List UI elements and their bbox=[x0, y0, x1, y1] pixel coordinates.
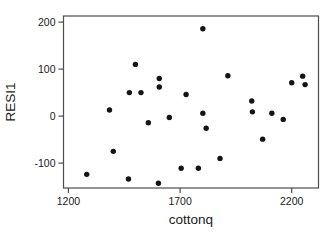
plot-border bbox=[64, 16, 319, 188]
y-axis-tick-labels: -1000100200 bbox=[34, 16, 55, 169]
data-point bbox=[167, 115, 172, 120]
y-axis-ticks bbox=[59, 22, 64, 163]
data-point bbox=[178, 166, 183, 171]
x-axis-tick-labels: 120017002200 bbox=[57, 195, 304, 207]
x-axis-ticks bbox=[68, 188, 291, 193]
y-tick-label: 100 bbox=[38, 63, 56, 75]
data-point bbox=[111, 149, 116, 154]
x-tick-label: 1200 bbox=[57, 195, 81, 207]
data-point bbox=[281, 117, 286, 122]
data-point bbox=[157, 84, 162, 89]
data-point bbox=[249, 98, 254, 103]
data-point bbox=[157, 76, 162, 81]
data-point bbox=[200, 26, 205, 31]
scatter-plot-svg: -1000100200 120017002200 RESI1 cottonq bbox=[0, 0, 336, 239]
data-point bbox=[200, 111, 205, 116]
data-point bbox=[300, 73, 305, 78]
data-point bbox=[289, 80, 294, 85]
data-point bbox=[133, 62, 138, 67]
x-tick-label: 1700 bbox=[168, 195, 192, 207]
y-tick-label: 0 bbox=[50, 110, 56, 122]
data-point bbox=[126, 176, 131, 181]
data-point bbox=[107, 107, 112, 112]
data-point bbox=[269, 111, 274, 116]
data-point bbox=[183, 92, 188, 97]
data-point bbox=[84, 172, 89, 177]
y-tick-label: 200 bbox=[38, 16, 56, 28]
y-axis-title: RESI1 bbox=[3, 82, 18, 121]
data-point bbox=[302, 82, 307, 87]
data-point bbox=[217, 156, 222, 161]
data-point bbox=[225, 73, 230, 78]
x-axis-title: cottonq bbox=[169, 212, 213, 227]
data-point bbox=[196, 166, 201, 171]
scatter-plot-figure: -1000100200 120017002200 RESI1 cottonq bbox=[0, 0, 336, 239]
data-point bbox=[203, 126, 208, 131]
data-point bbox=[127, 90, 132, 95]
y-tick-label: -100 bbox=[34, 157, 55, 169]
data-point bbox=[260, 136, 265, 141]
data-point bbox=[250, 109, 255, 114]
data-point bbox=[146, 120, 151, 125]
x-tick-label: 2200 bbox=[280, 195, 304, 207]
data-point bbox=[156, 181, 161, 186]
data-points bbox=[84, 26, 308, 186]
data-point bbox=[138, 90, 143, 95]
